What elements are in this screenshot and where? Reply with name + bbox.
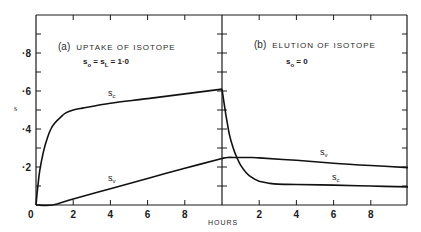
- panel-a-sv-label: sv: [108, 173, 116, 184]
- panel-b-sc-label: sc: [332, 172, 340, 183]
- panel-b-annotation: so = 0: [286, 57, 308, 68]
- y-tick-label: ·8: [22, 48, 31, 59]
- panel-b-sc-curve: [222, 89, 408, 187]
- panel-a-annotation: so = sL = 1·0: [83, 57, 130, 68]
- x-axis-label: HOURS: [208, 219, 238, 226]
- x-tick-label: 6: [331, 209, 337, 220]
- y-axis-label: s: [14, 104, 17, 113]
- origin-label: 0: [28, 209, 34, 220]
- x-tick-label: 8: [182, 209, 188, 220]
- uptake-elution-chart: 2468·2·4·6·82468 (a)UPTAKE OF ISOTOPE (b…: [0, 0, 421, 232]
- panel-b-title: (b)ELUTION OF ISOTOPE: [254, 39, 376, 50]
- panel-a-sc-curve: [36, 89, 222, 205]
- x-tick-label: 4: [294, 209, 300, 220]
- x-tick-label: 6: [145, 209, 151, 220]
- panel-b-sv-label: sv: [320, 147, 328, 158]
- panel-a-sc-label: sc: [108, 88, 116, 99]
- panel-b-sv-curve: [222, 157, 408, 167]
- x-tick-label: 2: [70, 209, 76, 220]
- y-tick-label: ·4: [22, 124, 31, 135]
- tick-labels: 2468·2·4·6·82468: [22, 48, 374, 220]
- y-tick-label: ·2: [22, 162, 31, 173]
- panel-a-sv-curve: [36, 158, 222, 205]
- x-tick-label: 8: [368, 209, 374, 220]
- panel-a-title: (a)UPTAKE OF ISOTOPE: [58, 41, 176, 52]
- y-tick-label: ·6: [22, 86, 31, 97]
- x-tick-label: 4: [108, 209, 114, 220]
- x-tick-label: 2: [256, 209, 262, 220]
